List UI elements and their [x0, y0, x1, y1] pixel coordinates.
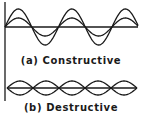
- caption-constructive: (a) Constructive: [0, 55, 142, 67]
- caption-destructive: (b) Destructive: [0, 102, 142, 114]
- constructive-panel: [5, 9, 138, 45]
- destructive-panel: [7, 81, 137, 95]
